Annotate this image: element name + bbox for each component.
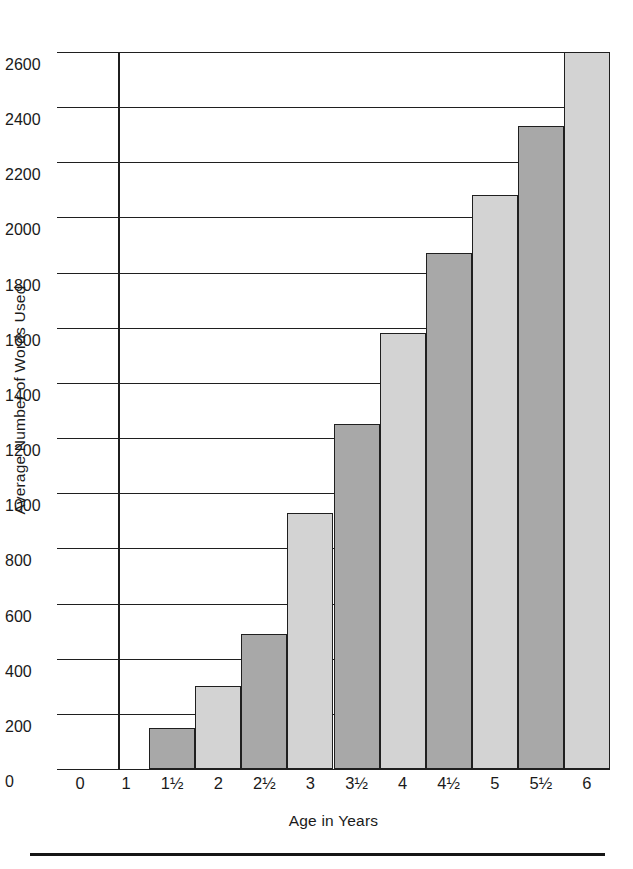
y-tick-label: 2000 — [3, 222, 57, 238]
x-axis-tick-labels: 011½22½33½44½55½6 — [57, 775, 610, 801]
bar — [195, 686, 241, 769]
bar — [149, 728, 195, 769]
gridline — [57, 769, 610, 770]
y-tick-label: 600 — [3, 609, 57, 625]
y-tick-label: 400 — [3, 664, 57, 680]
plot-area: 0200400600800100012001400160018002000220… — [57, 52, 610, 769]
y-tick-label: 2400 — [3, 112, 57, 128]
y-tick-label: 0 — [3, 774, 57, 790]
bar — [241, 634, 287, 769]
x-tick-label: 1½ — [161, 775, 184, 792]
y-tick-label: 2200 — [3, 167, 57, 183]
y-tick-label: 1000 — [3, 498, 57, 514]
bar — [287, 513, 333, 769]
x-tick-label: 4 — [398, 775, 407, 792]
x-tick-label: 3½ — [345, 775, 368, 792]
y-tick-label: 1400 — [3, 388, 57, 404]
x-tick-label: 6 — [582, 775, 591, 792]
bar — [518, 126, 564, 769]
bar-chart-figure: Average Number of Words Used 02004006008… — [0, 0, 633, 869]
bar — [380, 333, 426, 769]
y-tick-label: 200 — [3, 719, 57, 735]
x-tick-label: 0 — [75, 775, 84, 792]
x-tick-label: 5 — [490, 775, 499, 792]
x-tick-label: 2½ — [253, 775, 276, 792]
bar — [564, 52, 610, 769]
bar — [472, 195, 518, 769]
x-axis-title: Age in Years — [57, 812, 610, 830]
x-tick-label: 5½ — [530, 775, 553, 792]
y-tick-label: 800 — [3, 553, 57, 569]
y-tick-label: 1600 — [3, 333, 57, 349]
y-tick-label: 1800 — [3, 278, 57, 294]
bar-series — [57, 52, 610, 769]
bottom-rule — [30, 853, 605, 856]
x-tick-label: 4½ — [437, 775, 460, 792]
x-tick-label: 2 — [214, 775, 223, 792]
bar — [334, 424, 380, 769]
x-tick-label: 1 — [122, 775, 131, 792]
y-tick-label: 2600 — [3, 57, 57, 73]
y-tick-label: 1200 — [3, 443, 57, 459]
x-tick-label: 3 — [306, 775, 315, 792]
bar — [426, 253, 472, 769]
